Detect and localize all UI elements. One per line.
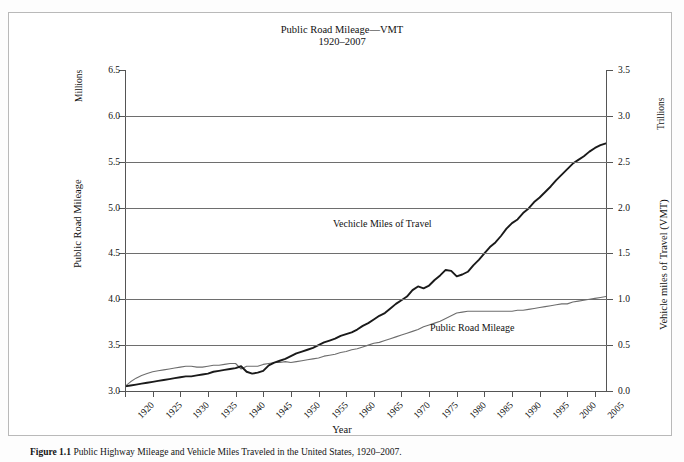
left-tick-label: 6.0 <box>86 111 120 121</box>
series-label-vmt: Vechicle Miles of Travel <box>333 218 432 229</box>
x-tick-mark <box>291 392 292 397</box>
x-tick-mark <box>457 392 458 397</box>
series-line-vmt <box>125 143 606 386</box>
figure-caption-text: Public Highway Mileage and Vehicle Miles… <box>73 447 401 457</box>
x-tick-mark <box>540 392 541 397</box>
right-tick-label: 3.0 <box>618 111 652 121</box>
x-tick-mark <box>236 392 237 397</box>
series-line-public-road-mileage <box>125 297 606 387</box>
gridline <box>125 253 607 254</box>
x-tick-mark <box>429 392 430 397</box>
x-axis-line <box>125 391 607 392</box>
gridline <box>125 345 607 346</box>
x-tick-mark <box>401 392 402 397</box>
right-tick-label: 0.0 <box>618 386 652 396</box>
x-tick-mark <box>125 392 126 397</box>
y-tick-mark <box>607 253 613 254</box>
y-tick-mark <box>607 391 613 392</box>
x-tick-mark <box>346 392 347 397</box>
figure-caption: Figure 1.1 Public Highway Mileage and Ve… <box>30 447 654 458</box>
x-tick-mark <box>263 392 264 397</box>
x-tick-mark <box>512 392 513 397</box>
right-tick-label: 1.5 <box>618 248 652 258</box>
left-tick-label: 3.0 <box>86 386 120 396</box>
y-tick-mark <box>607 208 613 209</box>
x-tick-mark <box>595 392 596 397</box>
x-axis-title: Year <box>0 424 684 435</box>
left-tick-label: 4.0 <box>86 294 120 304</box>
gridline <box>125 208 607 209</box>
y-tick-mark <box>607 299 613 300</box>
figure-caption-number: Figure 1.1 <box>30 447 71 457</box>
x-tick-mark <box>567 392 568 397</box>
left-tick-label: 5.0 <box>86 203 120 213</box>
y-tick-mark <box>607 116 613 117</box>
right-tick-label: 2.5 <box>618 157 652 167</box>
right-axis-line <box>606 70 607 392</box>
y-tick-mark <box>607 345 613 346</box>
y-tick-mark <box>607 162 613 163</box>
left-axis-title: Public Road Mileage <box>72 179 83 268</box>
left-axis-line <box>125 70 126 392</box>
gridline <box>125 299 607 300</box>
chart-subtitle: 1920–2007 <box>0 36 684 48</box>
right-tick-label: 0.5 <box>618 340 652 350</box>
right-axis-title: Vehicle miles of Travel (VMT) <box>658 199 669 330</box>
right-tick-label: 3.5 <box>618 65 652 75</box>
y-tick-mark <box>607 70 613 71</box>
x-tick-mark <box>484 392 485 397</box>
plot-area <box>125 70 607 392</box>
series-canvas <box>125 70 607 392</box>
right-tick-label: 2.0 <box>618 203 652 213</box>
right-axis-unit-label: Trillions <box>656 98 666 130</box>
left-tick-label: 6.5 <box>86 65 120 75</box>
chart-title: Public Road Mileage—VMT <box>0 24 684 36</box>
figure-page: Public Road Mileage—VMT 1920–2007 Millio… <box>0 0 684 462</box>
left-tick-label: 5.5 <box>86 157 120 167</box>
x-tick-mark <box>153 392 154 397</box>
x-tick-mark <box>319 392 320 397</box>
x-tick-mark <box>374 392 375 397</box>
gridline <box>125 116 607 117</box>
left-axis-unit-label: Millions <box>74 70 84 102</box>
right-tick-label: 1.0 <box>618 294 652 304</box>
gridline <box>125 162 607 163</box>
left-tick-label: 4.5 <box>86 248 120 258</box>
x-tick-mark <box>208 392 209 397</box>
series-label-public-road-mileage: Public Road Mileage <box>430 322 514 333</box>
x-tick-mark <box>180 392 181 397</box>
left-tick-label: 3.5 <box>86 340 120 350</box>
